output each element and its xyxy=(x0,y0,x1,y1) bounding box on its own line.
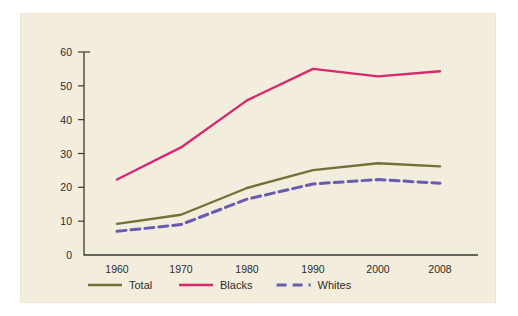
y-axis-tick-labels: 0102030405060 xyxy=(60,46,72,261)
x-axis-tick-label: 1990 xyxy=(301,263,325,275)
x-axis-tick-label: 2008 xyxy=(428,263,452,275)
chart-panel: 0102030405060 196019701980199020002008 T… xyxy=(20,13,496,303)
legend-item-whites: Whites xyxy=(277,279,352,291)
y-axis-tick-label: 20 xyxy=(60,181,72,193)
legend-item-blacks: Blacks xyxy=(179,279,253,291)
y-axis-tick-label: 60 xyxy=(60,46,72,58)
y-axis-tick-label: 30 xyxy=(60,148,72,160)
x-axis-tick-label: 2000 xyxy=(366,263,390,275)
series-line-total xyxy=(117,163,440,224)
y-axis-tick-label: 0 xyxy=(66,249,72,261)
legend-label-whites: Whites xyxy=(318,279,352,291)
legend-item-total: Total xyxy=(88,279,152,291)
x-axis-tick-labels: 196019701980199020002008 xyxy=(105,263,452,275)
x-axis-tick-label: 1970 xyxy=(169,263,193,275)
y-axis-tick-label: 40 xyxy=(60,114,72,126)
y-axis-tick-label: 10 xyxy=(60,215,72,227)
line-chart-plot: 0102030405060 196019701980199020002008 T… xyxy=(20,13,496,303)
legend-label-blacks: Blacks xyxy=(220,279,253,291)
axes-group xyxy=(84,52,478,255)
chart-legend: TotalBlacksWhites xyxy=(88,279,352,291)
x-axis-tick-label: 1980 xyxy=(235,263,259,275)
chart-figure: 0102030405060 196019701980199020002008 T… xyxy=(0,0,518,316)
y-axis-tick-label: 50 xyxy=(60,80,72,92)
data-series-group xyxy=(117,69,440,231)
series-line-whites xyxy=(117,180,440,232)
x-axis-tick-label: 1960 xyxy=(105,263,129,275)
legend-label-total: Total xyxy=(129,279,152,291)
